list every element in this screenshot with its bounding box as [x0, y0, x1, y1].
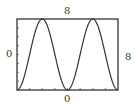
series-line	[17, 19, 118, 90]
plot-area	[0, 0, 135, 104]
plot-frame	[17, 19, 118, 90]
